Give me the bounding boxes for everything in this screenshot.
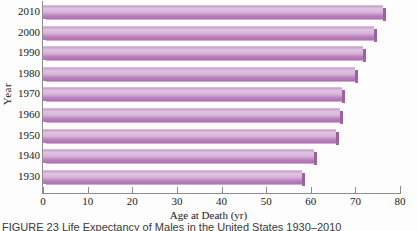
y-tick-label: 1980 [2,68,40,79]
x-tick-mark [311,187,312,194]
bar [43,26,374,40]
x-tick-label: 50 [251,196,281,207]
x-tick-mark [132,187,133,194]
x-axis-label: Age at Death (yr) [0,209,417,221]
bar-shadow [46,39,377,41]
bar-shadow [46,121,343,123]
y-tick-label: 1990 [2,47,40,58]
bar-shadow [46,100,345,102]
x-tick-mark [355,187,356,194]
bar [43,149,314,163]
x-tick-label: 60 [296,196,326,207]
x-tick-mark [222,187,223,194]
x-tick-label: 30 [162,196,192,207]
y-tick-label: 1960 [2,109,40,120]
x-tick-label: 0 [28,196,58,207]
bar [43,170,302,184]
bar-shadow [46,183,305,185]
bar-shadow [46,18,386,20]
y-tick-label: 1970 [2,88,40,99]
x-tick-mark [400,187,401,194]
bar-shadow [46,80,358,82]
figure-caption: FIGURE 23 Life Expectancy of Males in th… [2,221,417,231]
bar [43,108,340,122]
bar-shadow [46,59,366,61]
y-tick-label: 1940 [2,150,40,161]
y-tick-label: 1930 [2,171,40,182]
x-tick-label: 70 [340,196,370,207]
x-tick-label: 10 [73,196,103,207]
bar [43,5,383,19]
x-tick-mark [177,187,178,194]
x-tick-label: 40 [207,196,237,207]
bar [43,87,342,101]
bar-shadow [46,162,317,164]
y-tick-label: 1950 [2,130,40,141]
x-tick-mark [88,187,89,194]
bar-shadow [46,142,339,144]
y-tick-label: 2010 [2,6,40,17]
x-tick-label: 20 [117,196,147,207]
bar [43,129,336,143]
x-tick-mark [266,187,267,194]
y-tick-label: 2000 [2,27,40,38]
bar [43,46,363,60]
figure-container: Year 20102000199019801970196019501940193… [0,0,417,231]
bar [43,67,355,81]
x-tick-label: 80 [385,196,415,207]
x-tick-mark [43,187,44,194]
